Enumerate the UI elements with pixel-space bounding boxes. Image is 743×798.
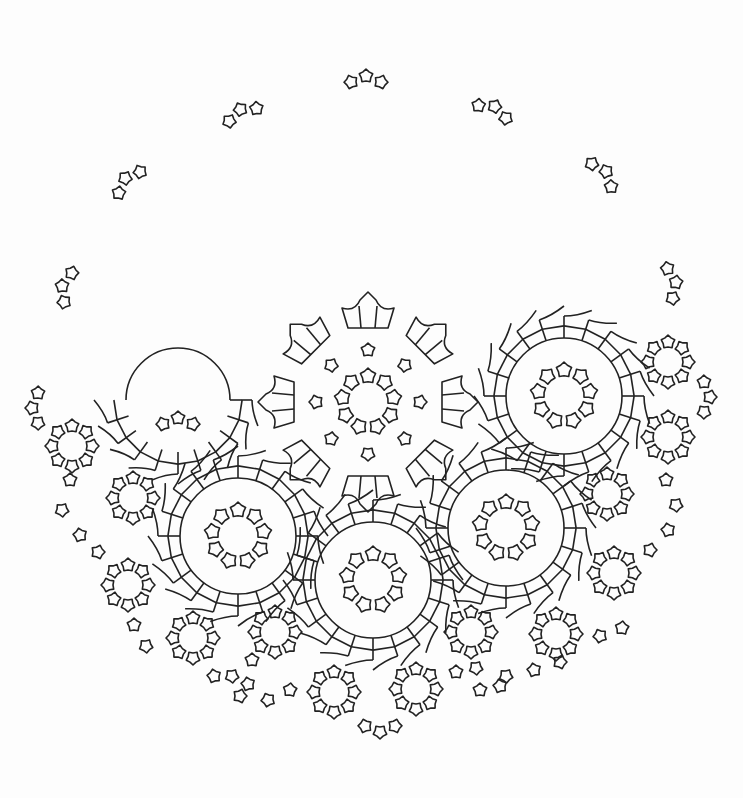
star-flower-icon bbox=[327, 706, 340, 719]
center-motif bbox=[258, 292, 478, 512]
star-flower-icon bbox=[409, 703, 422, 716]
wheel-rung bbox=[506, 595, 528, 598]
star-flower-icon bbox=[451, 639, 464, 652]
wheel-scallop bbox=[246, 423, 249, 450]
wheel-spoke bbox=[420, 533, 438, 546]
star-flower-icon bbox=[388, 586, 403, 601]
wheel-rung bbox=[563, 550, 573, 570]
wheel-rung bbox=[436, 528, 439, 550]
star-flower-icon bbox=[549, 607, 562, 620]
star-flower-icon bbox=[113, 478, 126, 491]
star-flower-icon bbox=[524, 516, 539, 531]
wheel-rung bbox=[605, 437, 621, 453]
star-flower-icon bbox=[648, 444, 661, 457]
wheel-scallop bbox=[162, 483, 165, 511]
wheel-scallop bbox=[373, 656, 398, 670]
star-flower-icon bbox=[186, 611, 199, 624]
star-flower-icon bbox=[205, 524, 220, 539]
wheel-scallop bbox=[311, 561, 314, 589]
wheel-scallop bbox=[586, 528, 592, 556]
cup-divider bbox=[414, 328, 431, 345]
star-flower-icon bbox=[335, 390, 350, 405]
star-flower-icon bbox=[348, 685, 361, 698]
wheel-scallop bbox=[459, 442, 478, 463]
wheel-rung bbox=[586, 453, 606, 463]
wheel-rung bbox=[547, 569, 563, 585]
wheel-rung bbox=[239, 400, 242, 420]
wheel-rung bbox=[528, 585, 548, 595]
wheel-scallop bbox=[534, 593, 553, 614]
wheel-scallop bbox=[579, 553, 582, 581]
star-flower-icon bbox=[464, 646, 477, 659]
star-flower-icon bbox=[396, 669, 409, 682]
star-flower-icon bbox=[464, 605, 477, 618]
star-flower-icon bbox=[597, 162, 615, 180]
wheel-rung bbox=[631, 396, 634, 418]
star-flower-icon bbox=[106, 491, 119, 504]
star-flower-icon bbox=[248, 100, 265, 117]
star-flower-icon bbox=[86, 439, 99, 452]
wheel-scallop bbox=[420, 515, 446, 527]
wheel-scallop bbox=[300, 633, 326, 645]
star-flower-icon bbox=[621, 580, 634, 593]
rosette bbox=[389, 662, 443, 716]
star-flower-icon bbox=[616, 621, 629, 634]
wheel-rung bbox=[494, 374, 497, 396]
star-flower-icon bbox=[135, 565, 148, 578]
wheel-scallop bbox=[326, 494, 345, 515]
wheel-rung bbox=[414, 621, 430, 637]
wheel-rung bbox=[332, 513, 352, 523]
star-flower-icon bbox=[200, 645, 213, 658]
star-flower-icon bbox=[660, 261, 675, 276]
cup-motif bbox=[342, 292, 394, 328]
rosette bbox=[106, 471, 160, 525]
wheel-rung bbox=[238, 603, 260, 606]
wheel-rung bbox=[168, 536, 171, 558]
star-flower-icon bbox=[675, 444, 688, 457]
wheel-spoke bbox=[173, 570, 191, 583]
star-flower-icon bbox=[607, 546, 620, 559]
star-flower-icon bbox=[200, 618, 213, 631]
wheel-rung bbox=[573, 506, 576, 528]
star-flower-icon bbox=[486, 97, 504, 114]
star-flower-icon bbox=[370, 419, 385, 434]
star-flower-icon bbox=[529, 627, 542, 640]
star-chain bbox=[127, 618, 296, 707]
star-flower-icon bbox=[669, 274, 684, 289]
trefoil-cluster bbox=[697, 375, 717, 419]
wheel-rung bbox=[295, 495, 305, 515]
star-flower-icon bbox=[140, 505, 153, 518]
wheel-spoke bbox=[285, 570, 303, 583]
star-flower-icon bbox=[171, 411, 184, 424]
wheel-rung bbox=[631, 374, 634, 396]
star-flower-icon bbox=[409, 662, 422, 675]
wheel-scallop bbox=[348, 490, 373, 504]
star-flower-icon bbox=[361, 343, 374, 356]
wheel-rung bbox=[332, 637, 352, 647]
wheel-rung bbox=[395, 513, 415, 523]
star-flower-icon bbox=[682, 355, 695, 368]
wheel-scallop bbox=[506, 604, 531, 618]
wheel-rung bbox=[439, 487, 449, 507]
star-flower-icon bbox=[344, 75, 357, 88]
wheel-rung bbox=[114, 400, 117, 420]
star-flower-icon bbox=[284, 683, 297, 696]
star-flower-icon bbox=[383, 408, 398, 423]
cup-shape bbox=[258, 376, 294, 428]
star-flower-icon bbox=[65, 419, 78, 432]
star-flower-icon bbox=[607, 587, 620, 600]
trefoil-cluster bbox=[50, 263, 80, 311]
wheel-rung bbox=[449, 471, 465, 487]
wheel-rung bbox=[216, 603, 238, 606]
star-flower-icon bbox=[255, 639, 268, 652]
star-chain bbox=[473, 621, 629, 696]
wheel-scallop bbox=[629, 349, 650, 368]
star-flower-icon bbox=[451, 612, 464, 625]
star-flower-icon bbox=[121, 599, 134, 612]
star-flower-icon bbox=[485, 625, 498, 638]
wheel-rung bbox=[305, 514, 308, 536]
star-flower-icon bbox=[31, 386, 44, 399]
wheel-ring bbox=[148, 446, 328, 626]
star-flower-icon bbox=[477, 534, 492, 549]
star-flower-icon bbox=[661, 335, 674, 348]
